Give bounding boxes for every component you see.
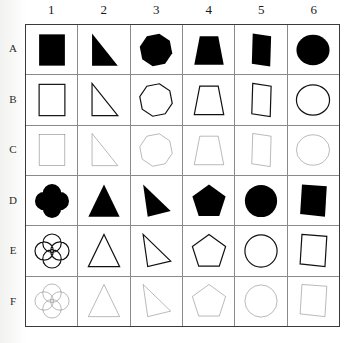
matrix-row bbox=[26, 75, 340, 125]
shape-scalene-triangle bbox=[133, 278, 179, 324]
matrix-cell-F1[interactable] bbox=[26, 276, 78, 326]
matrix-row bbox=[26, 25, 340, 75]
matrix-cell-B1[interactable] bbox=[26, 75, 78, 125]
column-header-3: 3 bbox=[141, 2, 171, 18]
shape-slanted-square bbox=[290, 278, 336, 324]
matrix-cell-C6[interactable] bbox=[287, 125, 339, 175]
matrix-cell-F5[interactable] bbox=[235, 276, 287, 326]
shape-heptagon bbox=[133, 27, 179, 73]
matrix-cell-A2[interactable] bbox=[78, 25, 130, 75]
shape-square bbox=[29, 27, 75, 73]
matrix-row bbox=[26, 125, 340, 175]
shape-pentagon bbox=[186, 278, 232, 324]
shape-triangle bbox=[81, 278, 127, 324]
column-header-5: 5 bbox=[246, 2, 276, 18]
shape-trapezoid bbox=[186, 127, 232, 173]
shape-matrix-table bbox=[25, 24, 340, 327]
matrix-cell-E2[interactable] bbox=[78, 226, 130, 276]
shape-circle bbox=[238, 278, 284, 324]
shape-circle bbox=[238, 178, 284, 224]
shape-circle bbox=[238, 228, 284, 274]
shape-triangle bbox=[81, 228, 127, 274]
shape-scalene-triangle bbox=[133, 228, 179, 274]
matrix-row bbox=[26, 276, 340, 326]
matrix-cell-C1[interactable] bbox=[26, 125, 78, 175]
shape-ellipse bbox=[290, 27, 336, 73]
shape-right-triangle bbox=[81, 77, 127, 123]
shape-triangle bbox=[81, 178, 127, 224]
matrix-cell-C5[interactable] bbox=[235, 125, 287, 175]
shape-right-triangle bbox=[81, 27, 127, 73]
shape-ellipse bbox=[290, 77, 336, 123]
matrix-cell-B5[interactable] bbox=[235, 75, 287, 125]
matrix-cell-A3[interactable] bbox=[130, 25, 182, 75]
matrix-cell-B6[interactable] bbox=[287, 75, 339, 125]
matrix-cell-E1[interactable] bbox=[26, 226, 78, 276]
shape-ellipse bbox=[290, 127, 336, 173]
shape-square bbox=[29, 127, 75, 173]
shape-heptagon bbox=[133, 77, 179, 123]
matrix-cell-F4[interactable] bbox=[182, 276, 234, 326]
row-header-A: A bbox=[5, 42, 21, 54]
matrix-cell-A5[interactable] bbox=[235, 25, 287, 75]
column-header-4: 4 bbox=[194, 2, 224, 18]
matrix-cell-A6[interactable] bbox=[287, 25, 339, 75]
matrix-row bbox=[26, 226, 340, 276]
matrix-cell-D1[interactable] bbox=[26, 175, 78, 225]
matrix-cell-A4[interactable] bbox=[182, 25, 234, 75]
matrix-cell-A1[interactable] bbox=[26, 25, 78, 75]
shape-matrix bbox=[25, 24, 340, 327]
shape-slanted-quad bbox=[238, 77, 284, 123]
matrix-cell-B2[interactable] bbox=[78, 75, 130, 125]
column-header-1: 1 bbox=[36, 2, 66, 18]
matrix-cell-F3[interactable] bbox=[130, 276, 182, 326]
matrix-cell-F6[interactable] bbox=[287, 276, 339, 326]
shape-trapezoid bbox=[186, 77, 232, 123]
shape-quatrefoil bbox=[29, 228, 75, 274]
matrix-cell-B4[interactable] bbox=[182, 75, 234, 125]
shape-heptagon bbox=[133, 127, 179, 173]
shape-slanted-quad bbox=[238, 27, 284, 73]
matrix-cell-C2[interactable] bbox=[78, 125, 130, 175]
matrix-cell-C4[interactable] bbox=[182, 125, 234, 175]
row-header-B: B bbox=[5, 93, 21, 105]
matrix-cell-D5[interactable] bbox=[235, 175, 287, 225]
matrix-cell-E5[interactable] bbox=[235, 226, 287, 276]
matrix-cell-B3[interactable] bbox=[130, 75, 182, 125]
matrix-cell-D2[interactable] bbox=[78, 175, 130, 225]
matrix-cell-D6[interactable] bbox=[287, 175, 339, 225]
matrix-cell-D4[interactable] bbox=[182, 175, 234, 225]
shape-quatrefoil bbox=[29, 278, 75, 324]
shape-quatrefoil bbox=[29, 178, 75, 224]
matrix-cell-E6[interactable] bbox=[287, 226, 339, 276]
shape-square bbox=[29, 77, 75, 123]
column-header-2: 2 bbox=[89, 2, 119, 18]
shape-trapezoid bbox=[186, 27, 232, 73]
shape-right-triangle bbox=[81, 127, 127, 173]
shape-slanted-square bbox=[290, 228, 336, 274]
row-header-D: D bbox=[5, 194, 21, 206]
row-header-C: C bbox=[5, 143, 21, 155]
matrix-row bbox=[26, 175, 340, 225]
matrix-cell-F2[interactable] bbox=[78, 276, 130, 326]
shape-scalene-triangle bbox=[133, 178, 179, 224]
shape-pentagon bbox=[186, 178, 232, 224]
matrix-cell-E3[interactable] bbox=[130, 226, 182, 276]
matrix-cell-C3[interactable] bbox=[130, 125, 182, 175]
matrix-cell-E4[interactable] bbox=[182, 226, 234, 276]
matrix-cell-D3[interactable] bbox=[130, 175, 182, 225]
row-header-E: E bbox=[5, 244, 21, 256]
column-header-6: 6 bbox=[299, 2, 329, 18]
shape-slanted-quad bbox=[238, 127, 284, 173]
shape-pentagon bbox=[186, 228, 232, 274]
row-header-F: F bbox=[5, 295, 21, 307]
shape-slanted-square bbox=[290, 178, 336, 224]
